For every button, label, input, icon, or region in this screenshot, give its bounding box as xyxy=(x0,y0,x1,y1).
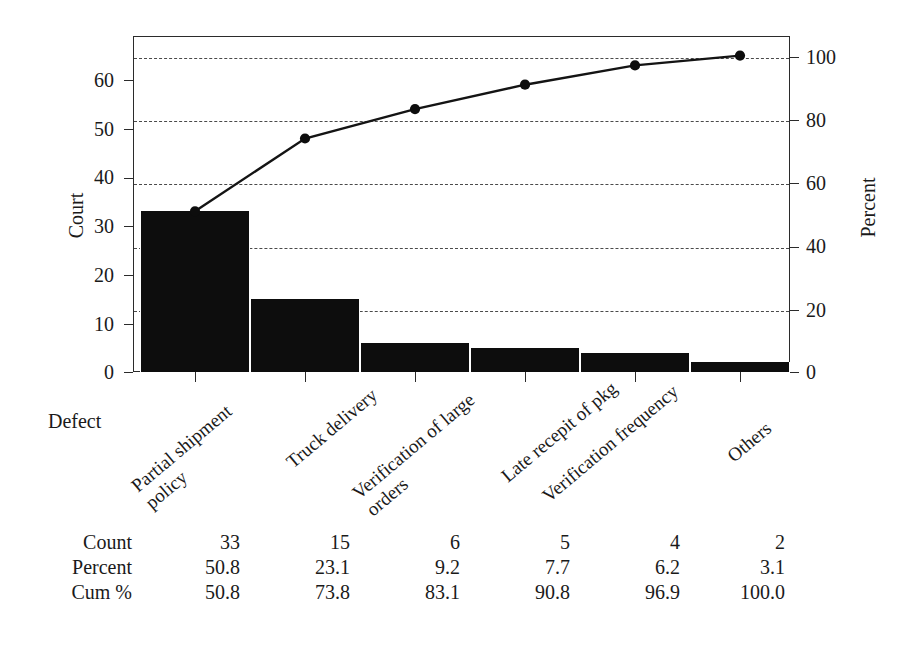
xtick-mark-2 xyxy=(305,372,306,382)
table-cell: 23.1 xyxy=(260,555,350,580)
ytick-right-label-100: 100 xyxy=(806,47,866,67)
xtick-mark-3 xyxy=(415,372,416,382)
cumulative-point-6 xyxy=(735,51,745,61)
xtick-mark-1 xyxy=(195,372,196,382)
cumulative-point-1 xyxy=(190,206,200,216)
table-cell: 90.8 xyxy=(480,580,570,605)
xtick-label-partial-shipment-policy: Partial shipment policy xyxy=(127,400,250,513)
table-cell: 2 xyxy=(695,530,785,555)
xtick-label-truck-delivery: Truck delivery xyxy=(282,384,382,473)
table-cell: 6 xyxy=(370,530,460,555)
ytick-left-label-60: 60 xyxy=(54,70,114,90)
ytick-right-mark-40 xyxy=(790,247,799,248)
ytick-left-label-50: 50 xyxy=(54,119,114,139)
cumulative-point-4 xyxy=(520,80,530,90)
table-cell: 3.1 xyxy=(695,555,785,580)
cumulative-point-3 xyxy=(410,104,420,114)
table-cell: 50.8 xyxy=(150,580,240,605)
cumulative-point-5 xyxy=(630,60,640,70)
cumulative-line-layer xyxy=(133,36,790,372)
axis-title-right: Percent xyxy=(857,164,880,252)
ytick-right-mark-0 xyxy=(790,372,799,373)
ytick-left-mark-50 xyxy=(124,129,133,130)
cumulative-point-2 xyxy=(300,133,310,143)
axis-title-left: Court xyxy=(65,181,88,251)
ytick-left-mark-40 xyxy=(124,178,133,179)
table-row-label: Cum % xyxy=(0,580,132,605)
ytick-right-mark-100 xyxy=(790,57,799,58)
pareto-chart: 60 50 40 30 20 10 0 Court 100 80 60 40 2… xyxy=(0,0,916,645)
ytick-right-label-80: 80 xyxy=(806,110,866,130)
ytick-left-label-20: 20 xyxy=(54,265,114,285)
table-cell: 4 xyxy=(590,530,680,555)
xtick-mark-5 xyxy=(635,372,636,382)
ytick-left-label-0: 0 xyxy=(54,362,114,382)
ytick-right-mark-60 xyxy=(790,183,799,184)
cumulative-line xyxy=(195,56,740,212)
ytick-left-mark-20 xyxy=(124,275,133,276)
table-cell: 5 xyxy=(480,530,570,555)
table-cell: 83.1 xyxy=(370,580,460,605)
table-row: Cum % 50.8 73.8 83.1 90.8 96.9 100.0 xyxy=(0,580,916,605)
table-cell: 7.7 xyxy=(480,555,570,580)
table-cell: 50.8 xyxy=(150,555,240,580)
ytick-left-mark-0 xyxy=(124,372,133,373)
table-row: Count 33 15 6 5 4 2 xyxy=(0,530,916,555)
table-cell: 100.0 xyxy=(695,580,785,605)
xtick-mark-4 xyxy=(525,372,526,382)
axis-title-bottom: Defect xyxy=(48,410,101,433)
xtick-label-others: Others xyxy=(723,417,776,466)
table-cell: 15 xyxy=(260,530,350,555)
ytick-left-mark-10 xyxy=(124,324,133,325)
table-row-label: Percent xyxy=(0,555,132,580)
ytick-right-mark-20 xyxy=(790,310,799,311)
xtick-mark-6 xyxy=(740,372,741,382)
ytick-left-label-10: 10 xyxy=(54,314,114,334)
table-row-label: Count xyxy=(0,530,132,555)
ytick-right-mark-80 xyxy=(790,120,799,121)
table-row: Percent 50.8 23.1 9.2 7.7 6.2 3.1 xyxy=(0,555,916,580)
ytick-right-label-20: 20 xyxy=(806,300,866,320)
ytick-left-mark-60 xyxy=(124,80,133,81)
table-cell: 6.2 xyxy=(590,555,680,580)
table-cell: 33 xyxy=(150,530,240,555)
ytick-right-label-0: 0 xyxy=(806,362,866,382)
table-cell: 9.2 xyxy=(370,555,460,580)
ytick-left-mark-30 xyxy=(124,226,133,227)
table-cell: 96.9 xyxy=(590,580,680,605)
table-cell: 73.8 xyxy=(260,580,350,605)
